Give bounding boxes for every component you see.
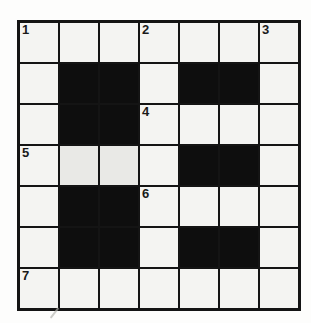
clue-number: 3 <box>262 23 269 38</box>
clue-number: 2 <box>142 23 149 38</box>
clue-number: 7 <box>22 269 29 284</box>
cell-r6c6 <box>220 228 258 267</box>
cell-r2c2 <box>60 64 98 103</box>
cell-r1c3[interactable] <box>100 23 138 62</box>
cell-r4c7[interactable] <box>260 146 298 185</box>
cell-r3c4[interactable]: 4 <box>140 105 178 144</box>
cell-r5c1[interactable] <box>20 187 58 226</box>
cell-r3c1[interactable] <box>20 105 58 144</box>
cell-r5c2 <box>60 187 98 226</box>
cell-r4c3[interactable] <box>100 146 138 185</box>
cell-r4c4[interactable] <box>140 146 178 185</box>
cell-r2c6 <box>220 64 258 103</box>
cell-r4c1[interactable]: 5 <box>20 146 58 185</box>
clue-number: 6 <box>142 187 149 202</box>
cell-r2c4[interactable] <box>140 64 178 103</box>
cell-r3c2 <box>60 105 98 144</box>
cell-r2c1[interactable] <box>20 64 58 103</box>
cell-r1c1[interactable]: 1 <box>20 23 58 62</box>
cell-r6c4[interactable] <box>140 228 178 267</box>
cell-r5c3 <box>100 187 138 226</box>
cell-r3c6[interactable] <box>220 105 258 144</box>
cell-r1c7[interactable]: 3 <box>260 23 298 62</box>
cell-r7c6[interactable] <box>220 269 258 308</box>
cell-r2c7[interactable] <box>260 64 298 103</box>
cell-r7c2[interactable] <box>60 269 98 308</box>
cell-r3c7[interactable] <box>260 105 298 144</box>
cell-r1c2[interactable] <box>60 23 98 62</box>
cell-r5c4[interactable]: 6 <box>140 187 178 226</box>
cell-r7c1[interactable]: 7 <box>20 269 58 308</box>
cell-r1c5[interactable] <box>180 23 218 62</box>
cell-r3c3 <box>100 105 138 144</box>
cell-r4c2[interactable] <box>60 146 98 185</box>
cell-r4c6 <box>220 146 258 185</box>
cell-r7c4[interactable] <box>140 269 178 308</box>
clue-number: 4 <box>142 105 149 120</box>
cell-r2c3 <box>100 64 138 103</box>
crossword-grid: 1234567 <box>17 20 301 311</box>
clue-number: 1 <box>22 23 29 38</box>
cell-r6c7[interactable] <box>260 228 298 267</box>
cell-r6c5 <box>180 228 218 267</box>
cell-r7c3[interactable] <box>100 269 138 308</box>
cell-r5c5[interactable] <box>180 187 218 226</box>
cell-r6c3 <box>100 228 138 267</box>
cell-r5c7[interactable] <box>260 187 298 226</box>
cell-r7c5[interactable] <box>180 269 218 308</box>
cell-r1c4[interactable]: 2 <box>140 23 178 62</box>
cell-r6c1[interactable] <box>20 228 58 267</box>
cell-r5c6[interactable] <box>220 187 258 226</box>
cell-r3c5[interactable] <box>180 105 218 144</box>
cell-r4c5 <box>180 146 218 185</box>
cell-r2c5 <box>180 64 218 103</box>
cell-r7c7[interactable] <box>260 269 298 308</box>
clue-number: 5 <box>22 146 29 161</box>
cell-r6c2 <box>60 228 98 267</box>
cell-r1c6[interactable] <box>220 23 258 62</box>
